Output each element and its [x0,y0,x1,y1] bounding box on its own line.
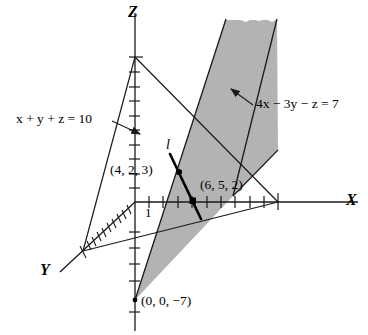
y-axis-label: Y [40,262,50,278]
point-label-6-5-2: (6, 5, 2) [200,178,243,192]
point-marker-0-0-minus7 [133,298,138,303]
z-axis-ticks [129,57,143,312]
diagram-svg [0,0,368,335]
intersection-line-label: l [166,138,170,152]
y-axis [60,202,135,272]
point-marker-6-5-2 [190,198,197,205]
point-label-4-2-3: (4, 2, 3) [110,163,153,177]
point-marker-4-2-3 [176,169,182,175]
x-axis-unit-tick-label: 1 [145,206,152,219]
sum-plane-equation-label: x + y + z = 10 [16,112,92,126]
x-axis-label: X [346,192,357,208]
figure-canvas: Z X Y 1 x + y + z = 10 4x − 3y − z = 7 l… [0,0,368,335]
point-label-0-0-minus7: (0, 0, −7) [141,294,191,308]
shaded-plane-region [135,19,278,300]
shaded-plane-equation-label: 4x − 3y − z = 7 [256,97,339,111]
z-axis-label: Z [128,4,138,20]
